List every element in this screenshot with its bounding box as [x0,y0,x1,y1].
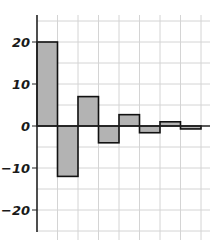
bar-6 [140,126,161,133]
bar-5 [119,115,140,126]
bar-3 [78,97,99,126]
bar-1 [37,42,58,126]
y-tick-label: −10 [1,161,30,176]
y-tick-label: 10 [12,77,30,92]
bar-4 [99,126,120,143]
y-tick-labels: 20100−10−20 [1,35,37,218]
y-tick-label: 20 [12,35,30,50]
y-tick-label: −20 [1,203,30,218]
bar-2 [58,126,79,176]
y-tick-label: 0 [21,119,30,134]
bar-chart: 20100−10−20 [0,0,218,248]
